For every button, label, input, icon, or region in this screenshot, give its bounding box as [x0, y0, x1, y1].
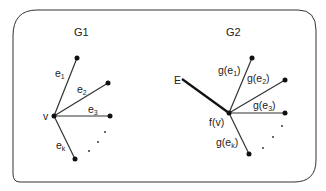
edge-ek-label: ek [56, 139, 66, 152]
node-g-e3-end [283, 111, 288, 116]
edge-g-e1-label: g(e1) [218, 64, 241, 77]
edge-E-label: E [174, 74, 181, 86]
ellipsis-dot [281, 125, 283, 127]
node-e1-end [75, 56, 80, 61]
ellipsis-dot [88, 150, 90, 152]
node-e2-end [106, 81, 111, 86]
vertex-fv-label: f(v) [209, 116, 224, 128]
edge-e1-label: e1 [55, 67, 65, 80]
graph-g1-label: G1 [74, 26, 89, 38]
graph-g2-label: G2 [226, 26, 241, 38]
graph-g1: G1 v e1 e2 e3 ek [43, 26, 113, 162]
node-g-e2-end [283, 78, 288, 83]
vertex-v-label: v [43, 110, 49, 122]
edge-e3-label: e3 [88, 103, 98, 116]
node-fv [227, 111, 232, 116]
ellipsis-dot [97, 141, 99, 143]
edge-ek [54, 116, 75, 159]
node-ek-end [73, 157, 78, 162]
edge-g-ek-label: g(ek) [216, 136, 238, 149]
node-e3-end [108, 114, 113, 119]
node-v [52, 114, 57, 119]
edge-g-e2-label: g(e2) [247, 72, 270, 85]
outer-frame [13, 10, 316, 182]
node-g-ek-end [247, 152, 252, 157]
graph-mapping-diagram: G1 v e1 e2 e3 ek G2 E f(v) [0, 0, 326, 191]
edge-e2-label: e2 [77, 83, 87, 96]
graph-g2: G2 E f(v) g(e1) g(e2) g(e3) g(ek) [174, 26, 288, 157]
node-g-e1-end [250, 56, 255, 61]
ellipsis-dot [104, 131, 106, 133]
ellipsis-dot [272, 136, 274, 138]
edge-E [182, 79, 229, 113]
ellipsis-dot [262, 147, 264, 149]
edge-g-e3-label: g(e3) [253, 99, 276, 112]
